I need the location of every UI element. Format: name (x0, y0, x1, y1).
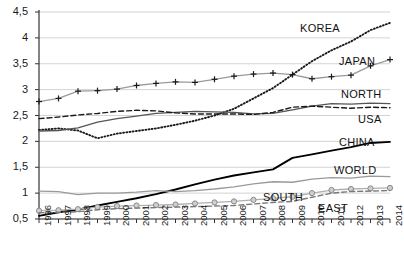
data-point-marker (153, 202, 158, 207)
series-label-south: SOUTH (263, 191, 303, 203)
data-point-marker (173, 79, 179, 85)
series-label-usa: USA (358, 113, 382, 125)
data-point-marker (329, 74, 335, 80)
data-point-marker (134, 82, 140, 88)
x-axis-tick-label: 2004 (199, 205, 209, 226)
x-axis-tick-label: 2002 (160, 205, 170, 226)
y-axis-tick-label: 4,5 (0, 6, 28, 17)
y-axis-tick-label: 3,5 (0, 58, 28, 69)
x-axis-tick-label: 2014 (394, 205, 404, 226)
data-point-marker (212, 200, 217, 205)
series-label-china: CHINA (339, 136, 375, 148)
data-point-marker (270, 70, 276, 76)
x-axis-tick-label: 1997 (63, 205, 73, 226)
y-axis-tick-label: 4 (0, 32, 28, 43)
series-label-east: EAST (318, 202, 348, 214)
data-point-marker (114, 203, 119, 208)
data-point-marker (387, 185, 392, 190)
data-point-marker (56, 95, 62, 101)
data-point-marker (348, 72, 354, 78)
x-axis-tick-label: 2005 (219, 205, 229, 226)
x-axis-tick-label: 2007 (258, 205, 268, 226)
data-point-marker (192, 201, 197, 206)
data-point-marker (309, 191, 314, 196)
data-point-marker (36, 99, 42, 105)
series-label-north: NORTH (341, 88, 381, 100)
data-point-marker (231, 73, 237, 79)
x-axis-tick-label: 2000 (121, 205, 131, 226)
data-point-marker (329, 187, 334, 192)
y-axis-tick-label: 2,5 (0, 110, 28, 121)
y-axis-tick-label: 3 (0, 84, 28, 95)
data-point-marker (387, 57, 393, 63)
data-point-marker (192, 79, 198, 85)
series-label-world: WORLD (334, 164, 376, 176)
y-axis-tick-label: 1 (0, 187, 28, 198)
data-point-marker (309, 76, 315, 82)
data-point-marker (114, 86, 120, 92)
data-point-marker (231, 199, 236, 204)
series-label-japan: JAPAN (339, 55, 375, 67)
x-axis-tick-label: 2008 (277, 205, 287, 226)
data-point-marker (368, 186, 373, 191)
series-label-korea: KOREA (300, 22, 340, 34)
data-point-marker (134, 203, 139, 208)
y-axis-tick-label: 2 (0, 135, 28, 146)
x-axis-tick-label: 2001 (141, 205, 151, 226)
x-axis-tick-label: 1996 (43, 205, 53, 226)
data-point-marker (75, 88, 81, 94)
data-point-marker (212, 76, 218, 82)
data-point-marker (153, 80, 159, 86)
data-point-marker (251, 71, 257, 77)
x-axis-tick-label: 2013 (375, 205, 385, 226)
x-axis-tick-label: 1998 (82, 205, 92, 226)
x-axis-tick-label: 2006 (238, 205, 248, 226)
x-axis-tick-label: 2012 (355, 205, 365, 226)
data-point-marker (251, 197, 256, 202)
x-axis-tick-label: 1999 (102, 205, 112, 226)
x-axis-tick-label: 2003 (180, 205, 190, 226)
data-point-marker (95, 88, 101, 94)
y-axis-tick-label: 1,5 (0, 161, 28, 172)
y-axis-tick-label: 0,5 (0, 213, 28, 224)
x-axis-tick-label: 2009 (297, 205, 307, 226)
data-point-marker (173, 202, 178, 207)
data-point-marker (348, 186, 353, 191)
